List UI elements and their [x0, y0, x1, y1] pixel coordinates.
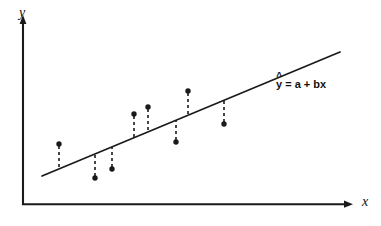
equation-rhs: = a + bx — [282, 78, 326, 90]
regression-line — [42, 52, 340, 176]
plot-canvas — [0, 0, 381, 226]
hat-accent-icon: ^ — [276, 72, 282, 82]
regression-scatter-figure: y x ^y = a + bx — [0, 0, 381, 226]
data-point — [185, 88, 190, 93]
data-point — [92, 175, 97, 180]
data-point — [145, 104, 150, 109]
y-axis-label: y — [19, 6, 25, 20]
yhat-symbol: ^y — [276, 79, 282, 90]
x-axis-label: x — [362, 195, 368, 209]
data-point — [173, 139, 178, 144]
x-axis-arrowhead — [344, 201, 353, 208]
y-axis — [20, 15, 27, 205]
data-point — [131, 111, 136, 116]
x-axis — [22, 201, 353, 208]
data-point — [109, 166, 114, 171]
data-point — [221, 121, 226, 126]
regression-equation-label: ^y = a + bx — [276, 79, 326, 90]
data-point — [56, 141, 61, 146]
